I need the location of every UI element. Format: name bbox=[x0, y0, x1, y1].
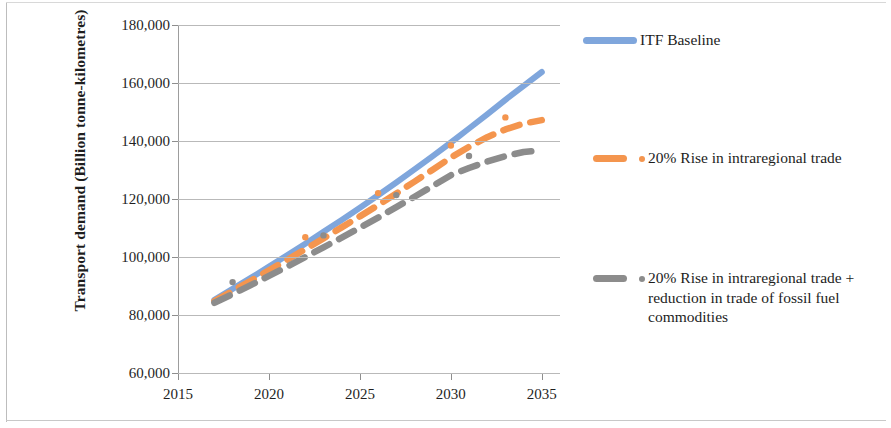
chart-figure: Transport demand (Billion tonne-kilometr… bbox=[0, 0, 891, 428]
series-marker-dot bbox=[393, 192, 399, 198]
series-marker-dot bbox=[448, 142, 454, 148]
legend-marker-dot-intraregional-trade-fossil bbox=[639, 276, 645, 282]
gridline-y bbox=[178, 373, 560, 374]
series-marker-dot bbox=[502, 114, 508, 120]
y-axis-tick-label: 100,000 bbox=[60, 250, 170, 265]
gridline-y bbox=[178, 83, 560, 84]
y-axis-tick bbox=[172, 257, 178, 258]
series-marker-dot bbox=[320, 232, 326, 238]
y-axis-tick bbox=[172, 83, 178, 84]
y-axis-tick-label: 60,000 bbox=[60, 366, 170, 381]
legend-item-itf-baseline[interactable]: ITF Baseline bbox=[583, 30, 883, 50]
y-axis-tick-label: 160,000 bbox=[60, 76, 170, 91]
y-axis-tick bbox=[172, 199, 178, 200]
series-line-3 bbox=[214, 150, 541, 303]
legend-marker-dot-intraregional-trade bbox=[639, 156, 645, 162]
page-border-left bbox=[6, 2, 7, 422]
series-marker-dot bbox=[229, 279, 235, 285]
y-axis-tick-label: 120,000 bbox=[60, 192, 170, 207]
x-axis-tick bbox=[360, 374, 361, 380]
legend-item-intraregional-trade[interactable]: 20% Rise in intraregional trade bbox=[583, 148, 883, 168]
x-axis-tick-label: 2030 bbox=[421, 387, 481, 402]
series-line-1 bbox=[214, 72, 541, 300]
legend-label-itf-baseline: ITF Baseline bbox=[640, 30, 721, 50]
legend-swatch-intraregional-trade-fossil bbox=[593, 275, 627, 282]
gridline-y bbox=[178, 141, 560, 142]
x-axis-tick-label: 2035 bbox=[512, 387, 572, 402]
x-axis-tick bbox=[542, 374, 543, 380]
series-marker-dot bbox=[466, 153, 472, 159]
gridline-y bbox=[178, 199, 560, 200]
y-axis-tick-label: 180,000 bbox=[60, 18, 170, 33]
gridline-y bbox=[178, 315, 560, 316]
x-axis-tick bbox=[451, 374, 452, 380]
legend-label-intraregional-trade-fossil: 20% Rise in intraregional trade + reduct… bbox=[648, 268, 863, 327]
series-line-2 bbox=[214, 120, 541, 301]
x-axis-tick-label: 2015 bbox=[148, 387, 208, 402]
x-axis-tick bbox=[269, 374, 270, 380]
x-axis-tick-label: 2020 bbox=[239, 387, 299, 402]
y-axis-tick-label: 80,000 bbox=[60, 308, 170, 323]
y-axis-tick-labels: 180,000160,000140,000120,000100,00080,00… bbox=[60, 0, 170, 428]
series-marker-dot bbox=[302, 234, 308, 240]
y-axis-tick bbox=[172, 141, 178, 142]
series-marker-dot bbox=[375, 190, 381, 196]
legend-swatch-intraregional-trade bbox=[593, 155, 627, 162]
legend-swatch-itf-baseline bbox=[583, 37, 637, 44]
x-axis-tick-label: 2025 bbox=[330, 387, 390, 402]
gridline-y bbox=[178, 257, 560, 258]
y-axis-tick bbox=[172, 315, 178, 316]
y-axis-tick bbox=[172, 25, 178, 26]
plot-area bbox=[178, 25, 560, 373]
legend-item-intraregional-trade-fossil[interactable]: 20% Rise in intraregional trade + reduct… bbox=[583, 268, 883, 327]
y-axis-tick-label: 140,000 bbox=[60, 134, 170, 149]
x-axis-tick bbox=[178, 374, 179, 380]
legend-label-intraregional-trade: 20% Rise in intraregional trade bbox=[648, 148, 842, 168]
gridline-y bbox=[178, 25, 560, 26]
